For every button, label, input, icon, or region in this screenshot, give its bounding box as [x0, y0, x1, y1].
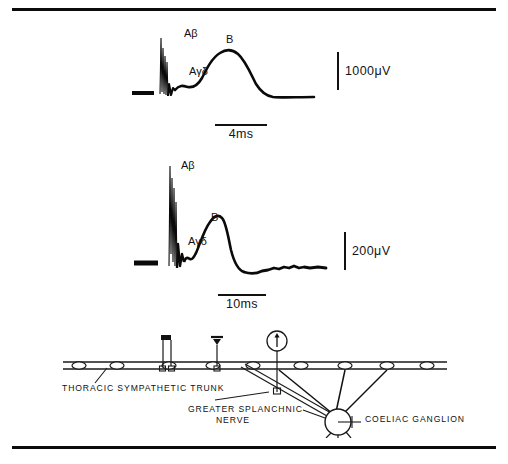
coeliac-ganglion-shape	[303, 409, 361, 438]
label-coeliac-ganglion: COELIAC GANGLION	[365, 414, 465, 425]
upper-peak-label-abeta: Aβ	[184, 28, 198, 39]
lower-time-scale-label: 10ms	[226, 297, 258, 311]
upper-trace-panel	[128, 22, 318, 112]
lower-peak-label-agammadelta: Aγδ	[188, 236, 207, 247]
upper-voltage-scale: 1000μV	[337, 52, 391, 90]
upper-time-scale-bar	[215, 124, 267, 126]
top-rule	[12, 8, 496, 11]
bottom-rule	[12, 446, 496, 449]
lower-peak-label-abeta: Aβ	[181, 160, 195, 171]
lower-voltage-scale-bar	[344, 232, 346, 270]
figure-page: Aβ Aγδ B 1000μV 4ms Aβ Aγδ B 200μV	[0, 0, 508, 464]
thoracic-sympathetic-trunk-shape	[63, 362, 447, 369]
lower-time-scale: 10ms	[218, 294, 266, 311]
lower-peak-label-b: B	[211, 212, 218, 223]
lower-time-scale-bar	[218, 294, 266, 296]
upper-time-scale-label: 4ms	[229, 127, 254, 141]
lower-trace-panel	[128, 158, 328, 278]
lower-voltage-scale-label: 200μV	[352, 244, 390, 258]
lower-voltage-scale: 200μV	[344, 232, 390, 270]
lower-trace-waveform	[128, 158, 328, 278]
upper-voltage-scale-label: 1000μV	[345, 64, 391, 78]
upper-peak-label-b: B	[226, 34, 233, 45]
upper-time-scale: 4ms	[215, 124, 267, 141]
label-thoracic-sympathetic-trunk: THORACIC SYMPATHETIC TRUNK	[62, 383, 224, 394]
upper-voltage-scale-bar	[337, 52, 339, 90]
label-greater-splanchnic-nerve-line2: NERVE	[216, 415, 250, 426]
trunk-label-leader	[95, 368, 107, 383]
upper-trace-waveform	[128, 22, 318, 112]
upper-peak-label-agammadelta: Aγδ	[189, 66, 208, 77]
label-greater-splanchnic-nerve-line1: GREATER SPLANCHNIC	[188, 404, 303, 415]
